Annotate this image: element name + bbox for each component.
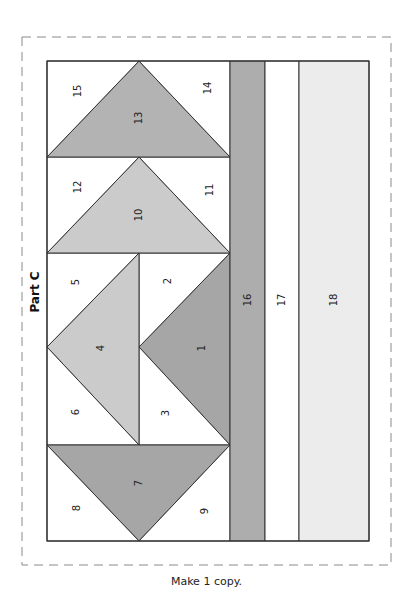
piece-label-1: 1 xyxy=(196,345,207,351)
piece-label-11: 11 xyxy=(204,184,215,197)
piece-label-10: 10 xyxy=(133,209,144,222)
piece-label-9: 9 xyxy=(199,508,210,514)
part-title: Part C xyxy=(28,271,42,312)
piece-label-12: 12 xyxy=(72,181,83,194)
piece-label-3: 3 xyxy=(160,410,171,416)
pieces-layer xyxy=(47,61,369,541)
piece-label-18: 18 xyxy=(328,294,339,307)
caption: Make 1 copy. xyxy=(0,575,413,588)
piece-label-14: 14 xyxy=(202,82,213,95)
piece-label-13: 13 xyxy=(133,112,144,125)
piece-label-16: 16 xyxy=(242,294,253,307)
piece-label-6: 6 xyxy=(70,409,81,415)
piece-label-7: 7 xyxy=(133,480,144,486)
piece-label-5: 5 xyxy=(70,279,81,285)
piece-label-15: 15 xyxy=(72,85,83,98)
piece-label-17: 17 xyxy=(276,294,287,307)
quilt-block-diagram: 123456789101112131415161718 Part C xyxy=(0,0,413,613)
piece-label-4: 4 xyxy=(95,345,106,351)
piece-label-8: 8 xyxy=(71,505,82,511)
piece-label-2: 2 xyxy=(162,278,173,284)
